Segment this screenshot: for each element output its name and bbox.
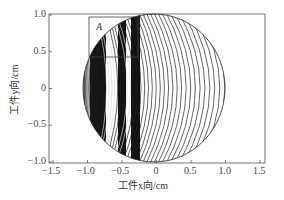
x-tick-label: 1.0 xyxy=(219,165,232,176)
y-tick-label: −1.0 xyxy=(28,155,46,166)
plot-frame xyxy=(49,14,265,163)
x-tick-label: −1.5 xyxy=(42,165,60,176)
y-tick-label: 0 xyxy=(41,82,46,93)
x-tick-label: −1.0 xyxy=(77,165,95,176)
y-tick-label: 0.5 xyxy=(34,45,47,56)
axis-ticks xyxy=(49,15,260,163)
y-axis-label: 工件y向/cm xyxy=(6,65,21,115)
y-tick-label: 1.0 xyxy=(34,8,47,19)
x-tick-label: 1.5 xyxy=(253,165,266,176)
region-a-label: A xyxy=(96,21,102,32)
x-tick-label: 0 xyxy=(154,165,159,176)
y-tick-label: −0.5 xyxy=(28,118,46,129)
x-tick-label: 0.5 xyxy=(184,165,197,176)
x-axis-label: 工件x向/cm xyxy=(118,177,168,192)
contour-lines xyxy=(78,10,230,170)
x-tick-label: −0.5 xyxy=(111,165,129,176)
